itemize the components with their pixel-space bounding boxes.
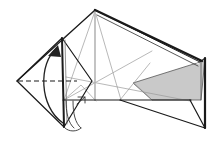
- origami-diagram-figure: Origami fold step diagram: [0, 0, 222, 154]
- origami-svg-canvas: Origami fold step diagram: [0, 0, 222, 154]
